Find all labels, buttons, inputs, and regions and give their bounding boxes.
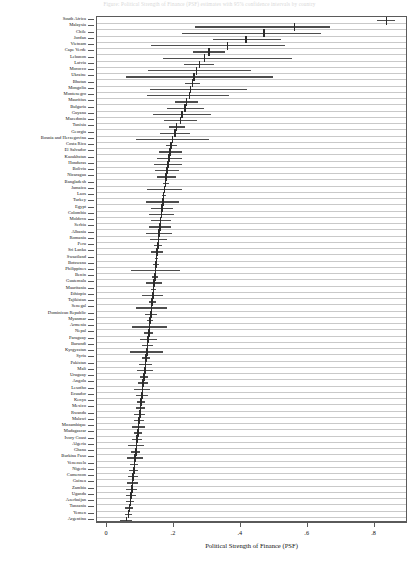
- gridline: [97, 36, 406, 37]
- y-axis-tick: [88, 175, 94, 176]
- gridline: [97, 111, 406, 112]
- ci-row: [97, 520, 407, 521]
- y-axis-tick: [88, 425, 94, 426]
- ci-row: [97, 170, 407, 171]
- y-axis-tick: [88, 444, 94, 445]
- y-axis-tick: [88, 250, 94, 251]
- plot-area: [96, 16, 407, 522]
- point-estimate-marker: [204, 54, 206, 62]
- country-label: Tanzania: [69, 504, 86, 509]
- country-label: Mauritius: [68, 98, 86, 103]
- gridline: [97, 198, 406, 199]
- gridline: [97, 286, 406, 287]
- country-label: Guinea: [73, 479, 86, 484]
- y-axis-tick: [88, 300, 94, 301]
- ci-row: [97, 326, 407, 327]
- country-label: Georgia: [71, 129, 86, 134]
- country-label: Sri Lanka: [68, 248, 86, 253]
- y-axis-tick: [88, 157, 94, 158]
- ci-row: [97, 320, 407, 321]
- ci-row: [97, 45, 407, 46]
- ci-row: [97, 233, 407, 234]
- y-axis-tick: [88, 281, 94, 282]
- ci-row: [97, 289, 407, 290]
- gridline: [97, 492, 406, 493]
- y-axis-tick: [88, 75, 94, 76]
- ci-row: [97, 39, 407, 40]
- gridline: [97, 392, 406, 393]
- y-axis-tick: [88, 369, 94, 370]
- country-label: Bolivia: [72, 166, 86, 171]
- x-axis-tick: [374, 522, 375, 527]
- point-estimate-marker: [386, 17, 388, 25]
- y-axis-tick: [88, 431, 94, 432]
- y-axis-tick: [88, 381, 94, 382]
- y-axis-tick: [88, 494, 94, 495]
- country-label: Malaysia: [69, 23, 86, 28]
- country-label: Serbia: [74, 223, 86, 228]
- gridline: [97, 79, 406, 80]
- ci-row: [97, 432, 407, 433]
- ci-row: [97, 364, 407, 365]
- y-axis-tick: [88, 413, 94, 414]
- gridline: [97, 436, 406, 437]
- country-label: Egypt: [75, 204, 86, 209]
- y-axis-tick: [88, 50, 94, 51]
- gridline: [97, 323, 406, 324]
- y-axis-tick: [88, 263, 94, 264]
- ci-row: [97, 20, 407, 21]
- point-estimate-marker: [181, 111, 183, 119]
- y-axis-tick: [88, 244, 94, 245]
- gridline: [97, 167, 406, 168]
- gridline: [97, 429, 406, 430]
- ci-row: [97, 89, 407, 90]
- country-axis-labels: South AfricaMalaysiaChileJordanVietnamCa…: [0, 16, 94, 522]
- country-label: Albania: [71, 229, 86, 234]
- x-axis-tick: [240, 522, 241, 527]
- x-axis-title: Political Strength of Finance (PSF): [96, 542, 407, 549]
- gridline: [97, 154, 406, 155]
- y-axis-tick: [88, 275, 94, 276]
- ci-row: [97, 26, 407, 27]
- country-label: Chile: [76, 29, 86, 34]
- ci-row: [97, 332, 407, 333]
- country-label: Lebanon: [70, 54, 86, 59]
- y-axis-tick: [88, 338, 94, 339]
- ci-row: [97, 376, 407, 377]
- gridline: [97, 304, 406, 305]
- ci-row: [97, 239, 407, 240]
- gridline: [97, 329, 406, 330]
- ci-row: [97, 407, 407, 408]
- point-estimate-marker: [180, 117, 182, 125]
- ci-row: [97, 270, 407, 271]
- point-estimate-marker: [227, 42, 229, 50]
- gridline: [97, 361, 406, 362]
- gridline: [97, 142, 406, 143]
- ci-row: [97, 445, 407, 446]
- y-axis-tick: [88, 119, 94, 120]
- gridline: [97, 186, 406, 187]
- gridline: [97, 54, 406, 55]
- point-estimate-marker: [263, 29, 265, 37]
- ci-row: [97, 276, 407, 277]
- gridline: [97, 517, 406, 518]
- ci-row: [97, 426, 407, 427]
- country-label: Syria: [76, 354, 86, 359]
- confidence-interval-bar: [163, 58, 291, 59]
- y-axis-tick: [88, 69, 94, 70]
- gridline: [97, 317, 406, 318]
- ci-row: [97, 33, 407, 34]
- gridline: [97, 342, 406, 343]
- point-estimate-marker: [196, 67, 198, 75]
- ci-row: [97, 382, 407, 383]
- gridline: [97, 86, 406, 87]
- ci-row: [97, 158, 407, 159]
- gridline: [97, 261, 406, 262]
- ci-row: [97, 457, 407, 458]
- country-label: Bulgaria: [70, 104, 86, 109]
- gridline: [97, 479, 406, 480]
- country-label: Montenegro: [64, 91, 86, 96]
- y-axis-tick: [88, 257, 94, 258]
- country-label: Kazakhstan: [65, 154, 86, 159]
- ci-row: [97, 501, 407, 502]
